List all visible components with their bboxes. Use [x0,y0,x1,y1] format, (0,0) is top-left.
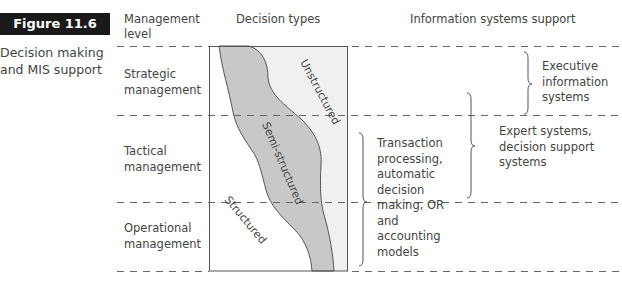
brace-expert-icon [467,93,475,198]
support-transaction: Transaction processing, automatic decisi… [377,136,462,260]
support-executive: Executive information systems [542,59,622,106]
label-structured: Structured [222,194,269,247]
level-tactical: Tactical management [124,143,214,175]
support-expert: Expert systems, decision support systems [499,124,609,171]
brace-executive-icon [524,52,532,114]
level-strategic: Strategic management [124,66,214,98]
brace-transaction-icon [359,133,367,266]
level-operational: Operational management [124,220,214,252]
